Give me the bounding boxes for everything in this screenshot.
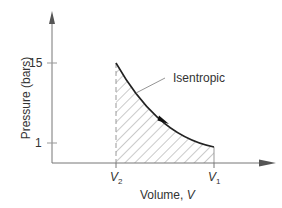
x-tick-v1-sub: 1 bbox=[216, 177, 220, 186]
x-tick-label-v2: V2 bbox=[110, 171, 122, 186]
y-axis-arrow-icon bbox=[49, 11, 55, 24]
x-tick-v2-var: V bbox=[110, 170, 118, 184]
y-axis-label: Pressure (bars) bbox=[20, 43, 32, 153]
x-tick-v2-sub: 2 bbox=[118, 177, 122, 186]
x-tick-label-v1: V1 bbox=[208, 171, 220, 186]
curve-label-isentropic: Isentropic bbox=[173, 72, 225, 84]
label-leader-line bbox=[136, 78, 165, 93]
x-axis-label-var: V bbox=[187, 188, 195, 202]
pv-diagram bbox=[0, 0, 282, 208]
x-axis-label-prefix: Volume, bbox=[140, 188, 187, 202]
x-tick-v1-var: V bbox=[208, 170, 216, 184]
x-axis-arrow-icon bbox=[259, 160, 276, 167]
y-axis bbox=[47, 11, 57, 163]
y-tick-label-1: 1 bbox=[35, 137, 42, 149]
x-axis-label: Volume, V bbox=[140, 189, 195, 201]
